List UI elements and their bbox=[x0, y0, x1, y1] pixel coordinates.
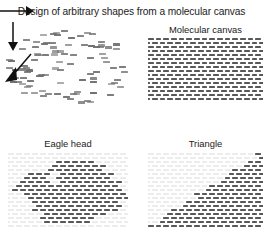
lattice-tile bbox=[104, 193, 110, 195]
lattice-tile bbox=[213, 197, 219, 199]
lattice-tile bbox=[8, 205, 10, 207]
lattice-tile bbox=[244, 181, 250, 183]
molecular-tile bbox=[52, 67, 59, 69]
lattice-tile bbox=[88, 193, 94, 195]
lattice-tile bbox=[8, 197, 10, 199]
lattice-tile bbox=[116, 181, 122, 183]
lattice-tile bbox=[28, 157, 34, 159]
lattice-tile bbox=[76, 205, 82, 207]
lattice-tile bbox=[167, 50, 173, 52]
lattice-tile bbox=[163, 38, 169, 40]
lattice-tile bbox=[240, 185, 246, 187]
lattice-tile bbox=[248, 54, 254, 56]
lattice-tile bbox=[171, 161, 177, 163]
lattice-tile bbox=[225, 193, 231, 195]
lattice-tile bbox=[148, 42, 150, 44]
lattice-tile bbox=[198, 197, 204, 199]
lattice-tile bbox=[72, 153, 78, 155]
lattice-tile bbox=[186, 209, 192, 211]
lattice-tile bbox=[44, 221, 50, 223]
lattice-tile bbox=[232, 201, 238, 203]
lattice-tile bbox=[148, 74, 150, 76]
lattice-tile bbox=[175, 205, 181, 207]
molecular-tile bbox=[57, 82, 64, 84]
lattice-tile bbox=[240, 54, 246, 56]
lattice-tile bbox=[32, 193, 38, 195]
lattice-tile bbox=[148, 201, 154, 203]
lattice-tile bbox=[190, 90, 196, 92]
molecular-tile bbox=[54, 34, 61, 36]
lattice-tile bbox=[221, 221, 227, 223]
lattice-tile bbox=[213, 66, 219, 68]
lattice-tile bbox=[84, 213, 90, 215]
lattice-tile bbox=[24, 161, 30, 163]
lattice-tile bbox=[171, 217, 177, 219]
lattice-tile bbox=[236, 173, 242, 175]
lattice-tile bbox=[36, 189, 42, 191]
lattice-tile bbox=[179, 54, 185, 56]
lattice-tile bbox=[20, 189, 26, 191]
lattice-tile bbox=[217, 225, 223, 227]
lattice-tile bbox=[194, 209, 200, 211]
lattice-tile bbox=[108, 173, 114, 175]
lattice-tile bbox=[202, 201, 208, 203]
molecular-tile bbox=[105, 46, 112, 48]
lattice-tile bbox=[175, 189, 181, 191]
lattice-tile bbox=[148, 165, 150, 167]
lattice-tile bbox=[206, 157, 212, 159]
lattice-tile bbox=[209, 217, 215, 219]
lattice-tile bbox=[124, 173, 128, 175]
lattice-tile bbox=[175, 221, 181, 223]
lattice-tile bbox=[179, 62, 185, 64]
lattice-tile bbox=[24, 217, 30, 219]
lattice-tile bbox=[160, 181, 166, 183]
lattice-tile bbox=[52, 197, 58, 199]
lattice-tile bbox=[171, 54, 177, 56]
lattice-tile bbox=[160, 173, 166, 175]
lattice-tile bbox=[190, 157, 196, 159]
lattice-tile bbox=[163, 62, 169, 64]
lattice-tile bbox=[44, 157, 50, 159]
lattice-tile bbox=[84, 165, 90, 167]
lattice-tile bbox=[124, 213, 128, 215]
lattice-tile bbox=[217, 46, 223, 48]
lattice-tile bbox=[44, 189, 50, 191]
lattice-tile bbox=[206, 74, 212, 76]
lattice-tile bbox=[160, 82, 166, 84]
lattice-tile bbox=[104, 217, 110, 219]
lattice-tile bbox=[221, 205, 227, 207]
lattice-tile bbox=[120, 185, 126, 187]
lattice-tile bbox=[190, 181, 196, 183]
lattice-tile bbox=[225, 70, 231, 72]
lattice-tile bbox=[8, 221, 10, 223]
lattice-tile bbox=[148, 58, 150, 60]
lattice-tile bbox=[52, 213, 58, 215]
molecular-tile bbox=[90, 77, 97, 79]
lattice-tile bbox=[179, 177, 185, 179]
lattice-tile bbox=[217, 70, 223, 72]
lattice-tile bbox=[167, 90, 173, 92]
lattice-tile bbox=[96, 209, 102, 211]
lattice-tile bbox=[198, 213, 204, 215]
lattice-tile bbox=[20, 165, 26, 167]
lattice-tile bbox=[217, 209, 223, 211]
lattice-tile bbox=[152, 90, 158, 92]
lattice-tile bbox=[116, 221, 122, 223]
lattice-tile bbox=[24, 169, 30, 171]
lattice-tile bbox=[206, 98, 212, 100]
lattice-tile bbox=[225, 161, 231, 163]
lattice-tile bbox=[183, 50, 189, 52]
lattice-tile bbox=[194, 185, 200, 187]
lattice-tile bbox=[244, 42, 250, 44]
lattice-tile bbox=[64, 193, 70, 195]
lattice-tile bbox=[217, 217, 223, 219]
lattice-tile bbox=[194, 177, 200, 179]
lattice-tile bbox=[116, 197, 122, 199]
lattice-tile bbox=[24, 193, 30, 195]
lattice-tile bbox=[225, 177, 231, 179]
lattice-tile bbox=[229, 205, 235, 207]
lattice-tile bbox=[202, 169, 208, 171]
lattice-tile bbox=[167, 157, 173, 159]
lattice-tile bbox=[8, 153, 14, 155]
lattice-tile bbox=[175, 42, 181, 44]
